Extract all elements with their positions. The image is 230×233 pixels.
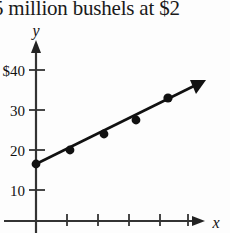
arrow-up-icon — [31, 40, 41, 53]
data-point — [32, 160, 41, 169]
y-axis-label: y — [30, 28, 40, 40]
y-tick-label-30: 30 — [10, 103, 25, 119]
x-axis — [4, 216, 205, 226]
data-point — [132, 116, 141, 125]
arrow-right-icon — [192, 216, 205, 226]
x-axis-label: x — [211, 214, 219, 231]
data-point — [100, 130, 109, 139]
data-point — [163, 93, 172, 102]
scatter-plot-figure: 5 million bushels at $2 — [0, 0, 230, 233]
chart-svg: $40 30 20 10 y x — [0, 28, 230, 233]
y-tick-label-40: $40 — [3, 63, 26, 79]
trend-line — [36, 80, 206, 164]
y-tick-label-10: 10 — [10, 183, 25, 199]
y-axis — [31, 40, 41, 233]
data-point — [66, 146, 75, 155]
chart-canvas: $40 30 20 10 y x — [0, 28, 230, 233]
cropped-header-text: 5 million bushels at $2 — [0, 0, 230, 21]
y-tick-label-20: 20 — [10, 143, 25, 159]
trend-line-segment — [36, 84, 198, 164]
